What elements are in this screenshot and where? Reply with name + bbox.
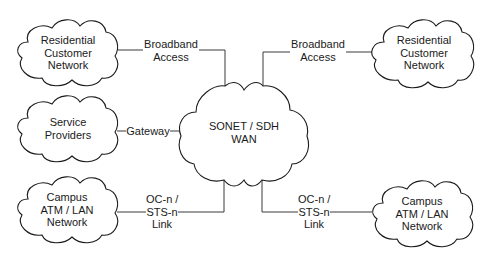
edge-campus-left-label: OC-n / STS-n Link: [146, 193, 178, 231]
network-diagram: Residential Customer Network Residential…: [0, 0, 487, 262]
node-wan-label: SONET / SDH WAN: [199, 120, 289, 145]
node-service-label: Service Providers: [28, 116, 108, 141]
edge-campus-right-label: OC-n / STS-n Link: [298, 193, 330, 231]
edge-res-right-label: Broadband Access: [290, 38, 346, 63]
node-campus-right-label: Campus ATM / LAN Network: [382, 195, 462, 233]
node-campus-left-label: Campus ATM / LAN Network: [27, 191, 107, 229]
node-res-left-label: Residential Customer Network: [28, 34, 108, 72]
edge-res-left-label: Broadband Access: [143, 38, 199, 63]
node-res-right-label: Residential Customer Network: [384, 34, 464, 72]
edge-service-label: Gateway: [126, 125, 170, 138]
